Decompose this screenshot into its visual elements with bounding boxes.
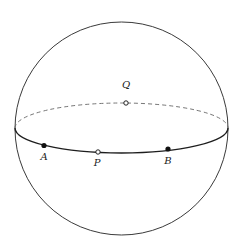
point-b-marker (165, 146, 170, 151)
sphere-outline (15, 22, 228, 235)
equator-front-solid (15, 128, 228, 153)
point-p-label: P (93, 157, 101, 168)
point-p-marker (96, 150, 100, 154)
diagram-svg: Q A P B (0, 0, 243, 252)
point-q-label: Q (122, 79, 130, 90)
point-b-label: B (163, 155, 171, 166)
point-a-marker (41, 143, 46, 148)
point-q-marker (124, 101, 128, 105)
sphere-diagram: Q A P B (0, 0, 243, 252)
equator-back-dashed (15, 103, 228, 128)
point-a-label: A (39, 151, 47, 162)
